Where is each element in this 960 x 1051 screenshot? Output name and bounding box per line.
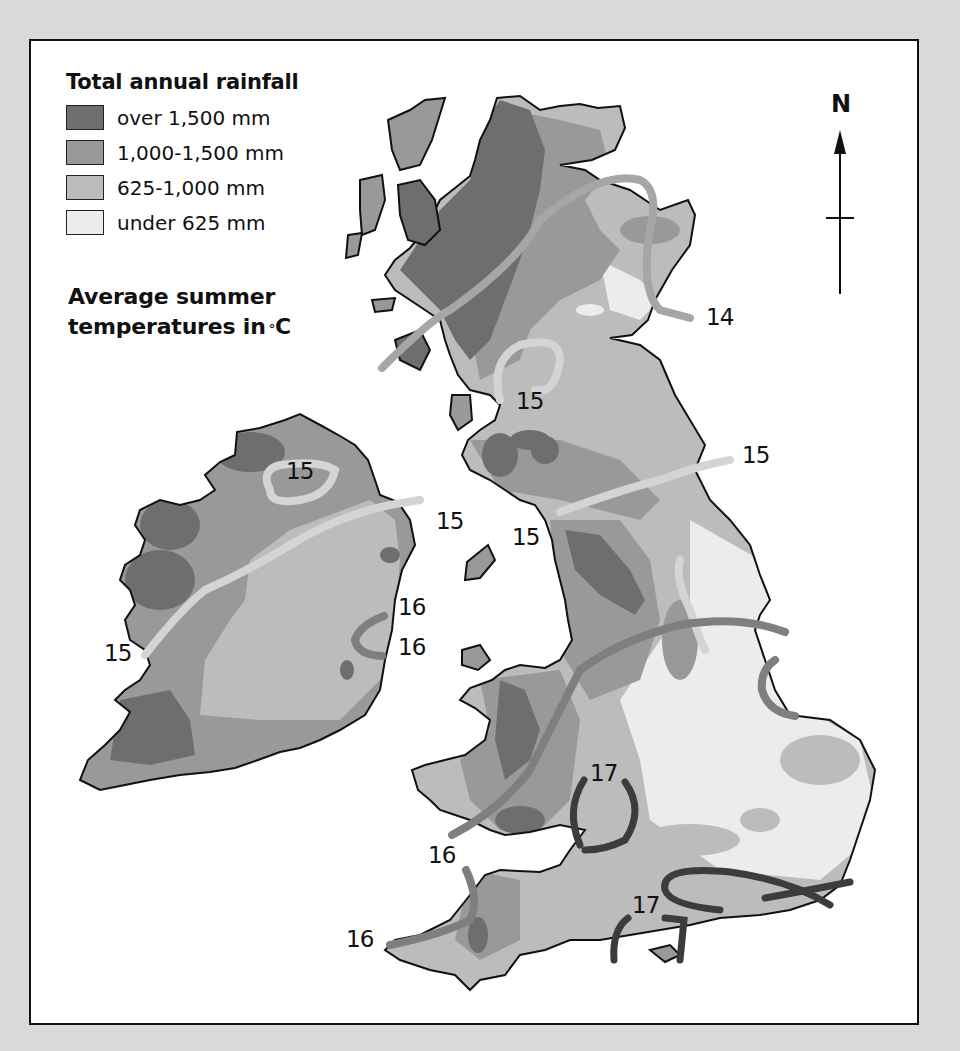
north-arrow: N — [820, 90, 860, 300]
isotherm-label: 15 — [516, 388, 543, 414]
isotherm-label: 17 — [632, 892, 659, 918]
legend-item-1000-1500: 1,000-1,500 mm — [66, 135, 299, 170]
isotherm-label: 15 — [436, 508, 463, 534]
legend-item-over-1500: over 1,500 mm — [66, 100, 299, 135]
swatch-625-1000 — [66, 175, 104, 200]
legend-label: over 1,500 mm — [117, 106, 271, 130]
isotherm-label: 16 — [398, 634, 425, 660]
rainfall-legend: Total annual rainfall over 1,500 mm 1,00… — [66, 70, 299, 240]
isotherm-label: 16 — [428, 842, 455, 868]
isotherm-label: 15 — [286, 458, 313, 484]
legend-item-under-625: under 625 mm — [66, 205, 299, 240]
legend-item-625-1000: 625-1,000 mm — [66, 170, 299, 205]
isotherm-label: 16 — [398, 594, 425, 620]
great-britain — [385, 96, 880, 990]
isotherm-label: 15 — [512, 524, 539, 550]
temperature-unit: C — [275, 314, 291, 339]
isotherm-label: 16 — [346, 926, 373, 952]
north-arrow-icon — [820, 90, 860, 300]
swatch-under-625 — [66, 210, 104, 235]
isotherm-label: 14 — [706, 304, 733, 330]
swatch-over-1500 — [66, 105, 104, 130]
ireland — [80, 414, 415, 790]
temperature-title-line1: Average summer — [68, 282, 291, 312]
degree-symbol: ° — [269, 321, 275, 336]
legend-label: 625-1,000 mm — [117, 176, 265, 200]
isotherm-label: 15 — [742, 442, 769, 468]
swatch-1000-1500 — [66, 140, 104, 165]
temperature-legend-title: Average summer temperatures in°C — [68, 282, 291, 342]
temperature-title-text: temperatures in — [68, 314, 266, 339]
temperature-title-line2: temperatures in°C — [68, 312, 291, 342]
legend-label: 1,000-1,500 mm — [117, 141, 284, 165]
legend-label: under 625 mm — [117, 211, 265, 235]
isotherm-label: 17 — [590, 760, 617, 786]
rainfall-legend-title: Total annual rainfall — [66, 70, 299, 94]
isotherm-label: 15 — [104, 640, 131, 666]
